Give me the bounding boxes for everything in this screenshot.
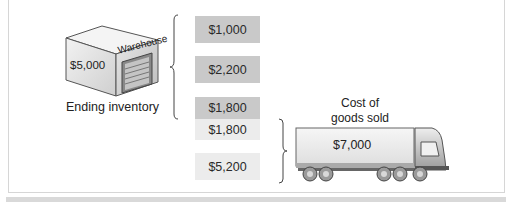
cogs-label-line1: Cost of	[325, 96, 395, 111]
bottom-divider	[6, 197, 506, 202]
cogs-layer-1: $1,800	[195, 119, 260, 140]
layer-value: $1,000	[208, 23, 246, 37]
layer-value: $2,200	[208, 63, 246, 77]
truck-value: $7,000	[333, 138, 371, 153]
layer-value: $5,200	[208, 160, 246, 174]
ending-inventory-layer-2: $2,200	[195, 56, 260, 83]
warehouse-value: $5,000	[70, 58, 105, 73]
ending-inventory-label: Ending inventory	[66, 100, 159, 115]
ending-inventory-layer-1: $1,000	[195, 16, 260, 43]
cogs-layer-2: $5,200	[195, 153, 260, 180]
cogs-brace	[278, 118, 288, 184]
cogs-label: Cost of goods sold	[325, 96, 395, 126]
layer-value: $1,800	[208, 123, 246, 137]
cogs-label-line2: goods sold	[325, 111, 395, 126]
ending-inventory-layer-3: $1,800	[195, 97, 260, 119]
layer-value: $1,800	[208, 101, 246, 115]
truck-icon	[290, 126, 452, 184]
ending-inventory-brace	[168, 14, 180, 120]
